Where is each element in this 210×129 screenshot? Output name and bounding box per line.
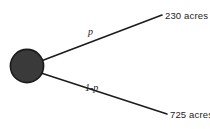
outcome-label-upper: 230 acres [165, 11, 208, 21]
branch-probability-upper: p [88, 27, 93, 37]
outcome-label-lower: 725 acres [170, 110, 210, 120]
branch-probability-lower: 1-p [85, 83, 98, 93]
branch-line-lower [41, 73, 167, 114]
branch-line-upper [41, 15, 162, 61]
chance-node-circle[interactable] [10, 49, 43, 82]
probability-tree-diagram: p 1-p 230 acres 725 acres [0, 0, 210, 129]
